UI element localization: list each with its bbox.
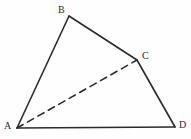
vertex-label-a: A	[4, 121, 11, 131]
figure-background	[0, 0, 191, 139]
vertex-label-c: C	[142, 51, 149, 61]
figure-canvas	[0, 0, 191, 139]
edge-ad	[17, 127, 175, 128]
vertex-label-d: D	[179, 120, 186, 130]
vertex-label-b: B	[58, 5, 65, 15]
geometry-figure: A B C D	[0, 0, 191, 139]
